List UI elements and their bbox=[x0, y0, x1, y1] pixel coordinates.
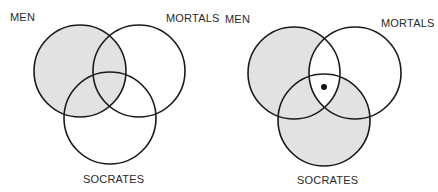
mortals-label: MORTALS bbox=[166, 12, 220, 24]
premise-diagram: MEN MORTALS SOCRATES bbox=[10, 11, 220, 185]
socrates-label: SOCRATES bbox=[297, 174, 358, 186]
socrates-marker-dot bbox=[321, 84, 327, 90]
men-label: MEN bbox=[10, 11, 35, 23]
venn-diagrams: MEN MORTALS SOCRATES MEN MORTALS SOCRATE… bbox=[0, 0, 438, 192]
conclusion-diagram: MEN MORTALS SOCRATES bbox=[225, 13, 435, 186]
mortals-label: MORTALS bbox=[381, 17, 435, 29]
socrates-label: SOCRATES bbox=[83, 173, 144, 185]
men-label: MEN bbox=[225, 13, 250, 25]
